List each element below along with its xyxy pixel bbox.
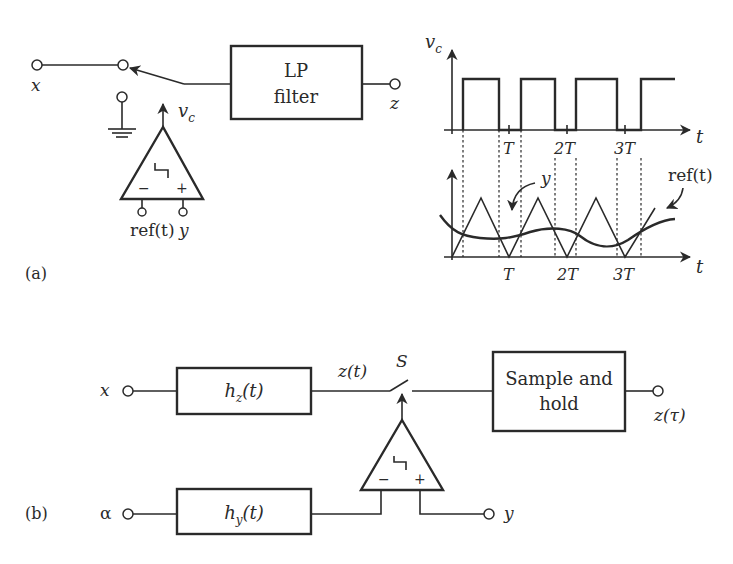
annotation-y-arrow-icon <box>512 183 535 210</box>
vc-tick-label-2T: 2T <box>553 139 576 158</box>
label-switch-s: S <box>396 351 408 371</box>
label-vc: vc <box>178 100 195 125</box>
yref-tick-label-3T: 3T <box>613 265 635 284</box>
terminal-x <box>32 60 42 70</box>
label-b-x: x <box>100 380 110 400</box>
yref-tick-label-T: T <box>503 265 515 284</box>
vc-pulse-train <box>463 79 675 130</box>
terminal-b-y <box>484 509 494 519</box>
ground-terminal <box>117 92 127 102</box>
sample-hold-line1: Sample and <box>505 368 613 389</box>
sample-hold-block <box>493 352 625 431</box>
switch-arm <box>130 68 184 84</box>
terminal-alpha <box>123 509 133 519</box>
annotation-y: y <box>540 168 551 188</box>
terminal-y <box>179 208 187 216</box>
panel-a-circuit: x LP filter z − + vc ref(t) <box>25 46 400 283</box>
terminal-ref <box>138 208 146 216</box>
vc-t-label: t <box>696 126 704 147</box>
comparator-a-minus: − <box>138 180 150 196</box>
annotation-ref-t: ref(t) <box>668 165 713 185</box>
terminal-z-tau <box>653 386 663 396</box>
figure-canvas: x LP filter z − + vc ref(t) <box>0 0 733 564</box>
ref-t-curve <box>440 215 675 246</box>
lp-filter-line1: LP <box>284 60 308 81</box>
panel-b-label: (b) <box>25 504 48 523</box>
terminal-b-x <box>123 386 133 396</box>
yref-tick-label-2T: 2T <box>556 265 579 284</box>
hysteresis-icon <box>155 163 168 178</box>
label-z: z <box>389 93 400 113</box>
vc-tick-label-3T: 3T <box>614 139 636 158</box>
label-alpha: α <box>100 503 112 523</box>
lp-filter-block <box>231 46 362 119</box>
switch-contact-terminal <box>118 60 128 70</box>
label-x: x <box>31 75 41 95</box>
annotation-ref-arrow-icon <box>667 188 683 208</box>
comparator-b-plus: + <box>414 471 426 487</box>
vc-tick-label-T: T <box>503 139 515 158</box>
panel-a-label: (a) <box>25 264 47 283</box>
wire-plus-to-y <box>420 490 484 514</box>
yref-t-label: t <box>696 256 704 277</box>
switch-s-arm <box>390 380 408 391</box>
label-z-t: z(t) <box>337 361 367 381</box>
comparator-a-plus: + <box>176 180 188 196</box>
hysteresis-icon-b <box>394 456 406 470</box>
comparator-b <box>361 420 443 490</box>
sample-hold-line2: hold <box>539 393 579 414</box>
comparator-b-minus: − <box>378 471 390 487</box>
ground-icon <box>108 129 136 137</box>
wire-minus-to-hy <box>311 490 381 514</box>
comparator-a <box>121 127 203 199</box>
lp-filter-line2: filter <box>274 86 319 107</box>
label-z-tau: z(τ) <box>653 405 686 425</box>
vc-axis-label: vc <box>425 31 442 56</box>
chart-vc: vc t T 2T 3T <box>425 31 704 158</box>
label-ref-t: ref(t) <box>130 220 175 240</box>
label-b-y: y <box>503 503 514 523</box>
label-y: y <box>178 220 189 240</box>
panel-b-circuit: x hz(t) z(t) S Sample and hold z(τ) − + … <box>25 351 686 534</box>
terminal-z <box>390 79 400 89</box>
